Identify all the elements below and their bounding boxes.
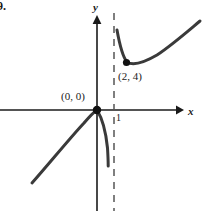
- exercise-number: 9.: [0, 0, 6, 12]
- origin-point-label: (0, 0): [61, 91, 85, 102]
- minimum-point-dot: [123, 59, 130, 66]
- curve-left-branch: [32, 110, 97, 183]
- curve-right-branch: [117, 21, 200, 64]
- coordinate-plane-plot: [0, 0, 204, 211]
- y-axis-label: y: [93, 2, 98, 13]
- x-axis-tick-label-1: 1: [116, 113, 121, 123]
- curve-middle-branch: [97, 110, 108, 166]
- graph-figure: 9. y x (2, 4) (0, 0) 1: [0, 0, 204, 211]
- x-axis-label: x: [188, 106, 194, 117]
- minimum-point-label: (2, 4): [118, 71, 142, 82]
- origin-point-dot: [93, 106, 101, 114]
